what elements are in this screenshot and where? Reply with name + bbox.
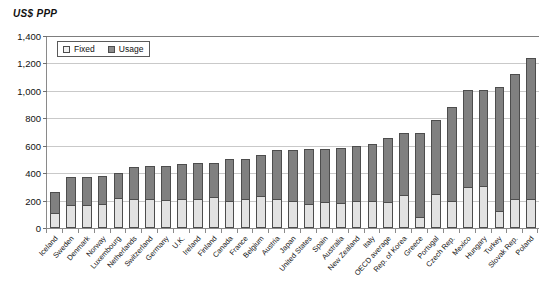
bar-segment-usage [526,58,536,199]
bar-slot [142,36,158,228]
stacked-bar[interactable] [336,148,346,228]
bar-slot [333,36,349,228]
bar-slot [47,36,63,228]
bar-segment-usage [399,133,409,195]
bar-slot [222,36,238,228]
bar-segment-usage [114,173,124,198]
bar-segment-usage [368,144,378,201]
y-axis-tick-label: 0 [36,223,41,234]
bar-segment-usage [145,166,155,200]
bar-segment-usage [510,74,520,198]
bar-slot [269,36,285,228]
y-axis-tick-label: 200 [25,195,41,206]
x-axis-label-slot: Poland [522,234,538,298]
bar-slot [190,36,206,228]
bar-slot [95,36,111,228]
bar-slot [285,36,301,228]
bar-segment-usage [336,148,346,202]
chart-legend: Fixed Usage [57,41,150,57]
bar-segment-usage [447,107,457,201]
legend-swatch-usage-icon [108,46,115,53]
bar-segment-usage [82,177,92,204]
bar-slot [349,36,365,228]
y-axis-tick-label: 1,200 [17,58,41,69]
bar-slot [253,36,269,228]
y-axis-tick-label: 600 [25,140,41,151]
bar-segment-usage [256,155,266,196]
bar-slot [301,36,317,228]
bar-slot [507,36,523,228]
bar-segment-usage [241,159,251,199]
bar-segment-usage [479,90,489,186]
bar-slot [174,36,190,228]
y-axis-tick-label: 1,000 [17,85,41,96]
bar-slot [111,36,127,228]
bar-segment-usage [495,87,505,210]
bar-segment-fixed [50,213,60,228]
legend-item-fixed: Fixed [63,44,95,54]
bar-slot [460,36,476,228]
bar-slot [428,36,444,228]
bar-slot [79,36,95,228]
bar-segment-usage [272,150,282,199]
y-axis-unit-label: US$ PPP [13,8,57,19]
bar-segment-usage [304,149,314,204]
bar-slot [492,36,508,228]
bar-segment-usage [177,164,187,199]
plot-area: 1,4001,2001,0008006004002000 [46,36,539,229]
y-axis-tick-label: 1,400 [17,31,41,42]
bar-segment-usage [209,163,219,197]
bar-slot [238,36,254,228]
stacked-bar[interactable] [50,192,60,228]
stacked-bar[interactable] [526,58,536,228]
bar-segment-usage [161,166,171,200]
bar-segment-usage [225,159,235,201]
bar-slot [476,36,492,228]
bar-segment-usage [66,177,76,205]
bars-layer [47,36,539,228]
bar-slot [365,36,381,228]
x-axis-labels: IcelandSwedenDenmarkNorwayLuxembourgNeth… [46,234,538,298]
stacked-bar[interactable] [495,87,505,228]
bar-segment-usage [98,176,108,204]
legend-label-fixed: Fixed [74,44,95,54]
chart-container: US$ PPP 1,4001,2001,0008006004002000 Ice… [0,0,545,299]
stacked-bar[interactable] [463,90,473,229]
bar-segment-usage [288,150,298,201]
bar-slot [317,36,333,228]
legend-label-usage: Usage [119,44,144,54]
bar-segment-usage [431,120,441,195]
stacked-bar[interactable] [193,163,203,228]
bar-segment-usage [383,138,393,202]
legend-swatch-fixed-icon [63,46,70,53]
bar-slot [63,36,79,228]
stacked-bar[interactable] [510,74,520,228]
bar-slot [158,36,174,228]
legend-item-usage: Usage [108,44,144,54]
stacked-bar[interactable] [447,107,457,228]
bar-slot [396,36,412,228]
bar-segment-fixed [193,199,203,228]
bar-slot [444,36,460,228]
stacked-bar[interactable] [383,138,393,229]
bar-slot [380,36,396,228]
y-axis-tick-label: 400 [25,168,41,179]
bar-segment-usage [352,146,362,200]
bar-slot [126,36,142,228]
stacked-bar[interactable] [304,149,314,228]
bar-slot [523,36,539,228]
y-axis-tick-label: 800 [25,113,41,124]
bar-segment-usage [129,167,139,199]
bar-slot [206,36,222,228]
bar-segment-usage [50,192,60,213]
stacked-bar[interactable] [479,90,489,228]
bar-segment-usage [463,90,473,187]
bar-segment-usage [320,149,330,202]
bar-segment-usage [193,163,203,199]
